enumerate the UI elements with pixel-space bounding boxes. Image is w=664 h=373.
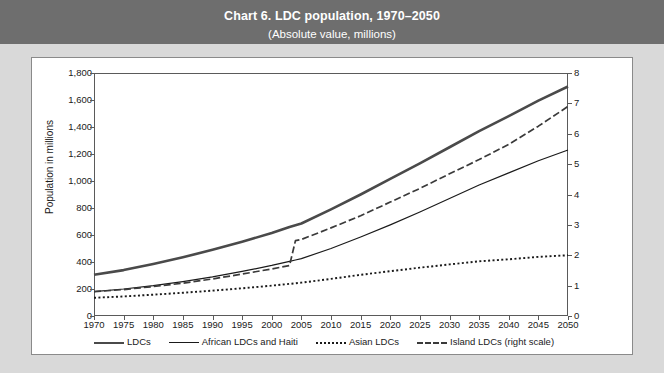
- legend-swatch-asian-icon: [316, 338, 346, 347]
- legend-swatch-island-icon: [417, 338, 447, 347]
- x-axis-tickmark: [568, 316, 569, 320]
- x-axis-tickmark: [509, 316, 510, 320]
- x-axis-tickmark: [479, 316, 480, 320]
- y-axis-right-tick-label: 8: [574, 68, 614, 78]
- chart-panel: Population in millions 02004006008001,00…: [31, 57, 633, 355]
- legend-label-african-ldcs-and-haiti: African LDCs and Haiti: [202, 337, 298, 347]
- x-axis-tickmark: [183, 316, 184, 320]
- x-axis-tickmark: [242, 316, 243, 320]
- y-axis-left-tick-label: 1,200: [32, 149, 92, 159]
- legend-item-african-ldcs-and-haiti: African LDCs and Haiti: [169, 337, 298, 347]
- y-axis-right-tick-label: 5: [574, 159, 614, 169]
- chart-canvas: Population in millions 02004006008001,00…: [32, 58, 634, 356]
- legend-item-asian-ldcs: Asian LDCs: [316, 337, 399, 347]
- y-axis-right-tickmark: [568, 103, 572, 104]
- y-axis-right-tickmark: [568, 134, 572, 135]
- x-axis-tickmark: [538, 316, 539, 320]
- y-axis-left-tick-label: 800: [32, 203, 92, 213]
- x-axis-tickmark: [361, 316, 362, 320]
- x-axis-tickmark: [213, 316, 214, 320]
- chart-subtitle: (Absolute value, millions): [0, 23, 664, 41]
- y-axis-right-tick-label: 4: [574, 190, 614, 200]
- legend-swatch-ldcs-icon: [94, 338, 124, 347]
- y-axis-right-tickmark: [568, 195, 572, 196]
- x-axis-tickmark: [124, 316, 125, 320]
- y-axis-right-tick-label: 2: [574, 250, 614, 260]
- legend-swatch-african-icon: [169, 338, 199, 347]
- y-axis-right-tickmark: [568, 286, 572, 287]
- y-axis-right-tickmark: [568, 255, 572, 256]
- y-axis-right-tick-label: 1: [574, 281, 614, 291]
- y-axis-right-tickmark: [568, 73, 572, 74]
- y-axis-right-tick-label: 6: [574, 129, 614, 139]
- y-axis-right-tickmark: [568, 164, 572, 165]
- y-axis-left-tick-label: 1,800: [32, 68, 92, 78]
- x-axis-tickmark: [450, 316, 451, 320]
- chart-title-band: Chart 6. LDC population, 1970–2050 (Abso…: [0, 0, 664, 44]
- y-axis-right-tick-label: 7: [574, 98, 614, 108]
- chart-title: Chart 6. LDC population, 1970–2050: [0, 0, 664, 23]
- y-axis-right-tick-label: 3: [574, 220, 614, 230]
- y-axis-left-tick-label: 600: [32, 230, 92, 240]
- y-axis-left-tick-label: 1,000: [32, 176, 92, 186]
- x-axis-tickmark: [94, 316, 95, 320]
- x-axis-tickmark: [390, 316, 391, 320]
- legend-label-asian-ldcs: Asian LDCs: [349, 337, 399, 347]
- legend-label-island-ldcs: Island LDCs (right scale): [450, 337, 554, 347]
- x-axis-tickmark: [153, 316, 154, 320]
- y-axis-right-tickmark: [568, 225, 572, 226]
- legend-item-island-ldcs: Island LDCs (right scale): [417, 337, 554, 347]
- y-axis-left-tick-label: 1,600: [32, 95, 92, 105]
- chart-legend: LDCs African LDCs and Haiti Asian LDCs I…: [94, 335, 594, 349]
- x-axis-tickmark: [331, 316, 332, 320]
- y-axis-left-tick-label: 200: [32, 284, 92, 294]
- x-axis-tickmark: [272, 316, 273, 320]
- x-axis-tick-label: 2050: [551, 320, 585, 330]
- x-axis-tickmark: [420, 316, 421, 320]
- screenshot-root: Chart 6. LDC population, 1970–2050 (Abso…: [0, 0, 664, 373]
- y-axis-left-tick-label: 1,400: [32, 122, 92, 132]
- legend-item-ldcs: LDCs: [94, 337, 151, 347]
- plot-frame: [94, 73, 568, 316]
- legend-label-ldcs: LDCs: [127, 337, 151, 347]
- x-axis-tickmark: [301, 316, 302, 320]
- y-axis-left-tick-label: 400: [32, 257, 92, 267]
